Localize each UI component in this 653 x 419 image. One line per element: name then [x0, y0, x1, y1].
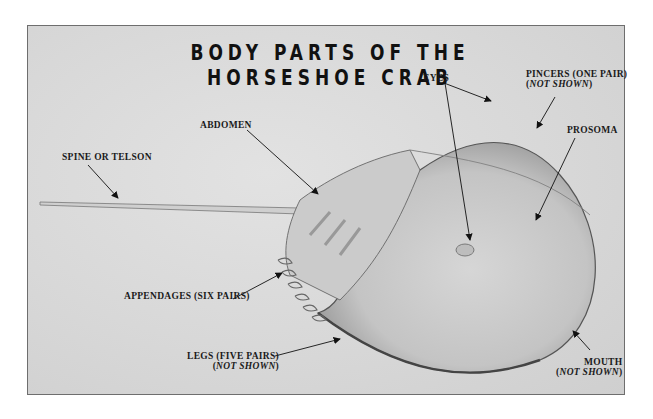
diagram-title: BODY PARTS OF THE HORSESHOE CRAB: [150, 40, 510, 90]
label-legs-line1: LEGS (FIVE PAIRS): [187, 351, 279, 361]
not-shown-text: NOT SHOWN: [529, 79, 588, 89]
label-mouth: MOUTH (NOT SHOWN): [556, 357, 622, 377]
label-appendages: APPENDAGES (SIX PAIRS): [124, 291, 250, 301]
paren-close: ): [619, 367, 622, 377]
label-spine: SPINE OR TELSON: [62, 152, 152, 162]
label-prosoma: PROSOMA: [567, 125, 618, 135]
label-pincers-line1: PINCERS (ONE PAIR): [526, 69, 627, 79]
telson-shape: [40, 202, 300, 214]
paren-close: ): [276, 361, 279, 371]
label-legs: LEGS (FIVE PAIRS) (NOT SHOWN): [187, 351, 279, 371]
not-shown-text: NOT SHOWN: [216, 361, 275, 371]
eye-shape: [456, 244, 474, 256]
not-shown-text: NOT SHOWN: [559, 367, 618, 377]
label-eyes: EYES: [423, 73, 449, 83]
label-abdomen: ABDOMEN: [200, 120, 252, 130]
label-mouth-line1: MOUTH: [556, 357, 622, 367]
label-mouth-line2: (NOT SHOWN): [556, 367, 622, 377]
label-pincers-line2: (NOT SHOWN): [526, 79, 627, 89]
paren-close: ): [589, 79, 592, 89]
label-pincers: PINCERS (ONE PAIR) (NOT SHOWN): [526, 69, 627, 89]
label-legs-line2: (NOT SHOWN): [187, 361, 279, 371]
